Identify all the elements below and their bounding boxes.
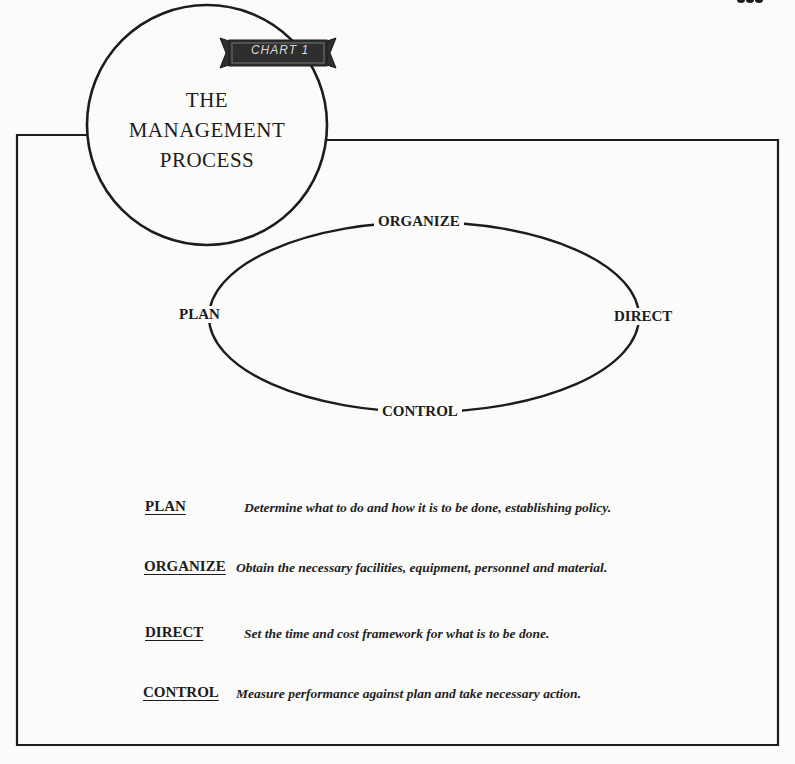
cycle-node-organize: ORGANIZE [374,213,464,230]
definition-term-control: CONTROL [143,684,219,701]
definition-term-direct: DIRECT [145,624,203,641]
cycle-node-plan: PLAN [175,306,224,323]
cycle-ellipse [209,222,639,412]
diagram-artwork [0,0,795,764]
definition-term-plan: PLAN [145,498,186,515]
title-line-2: MANAGEMENT [77,118,337,143]
cycle-node-control: CONTROL [378,403,462,420]
page-number-fragment [737,0,763,3]
title-line-3: PROCESS [77,148,337,173]
definition-term-organize: ORGANIZE [144,558,226,575]
definition-text-direct: Set the time and cost framework for what… [244,626,549,642]
definition-text-organize: Obtain the necessary facilities, equipme… [236,560,607,576]
definition-text-plan: Determine what to do and how it is to be… [244,500,611,516]
cycle-node-direct: DIRECT [610,308,676,325]
chart-badge-label: CHART 1 [236,43,324,57]
title-line-1: THE [77,88,337,113]
definition-text-control: Measure performance against plan and tak… [236,686,581,702]
